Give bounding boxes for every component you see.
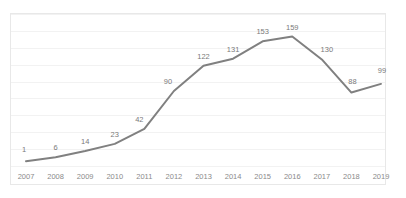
x-axis-tick-labels: 2007200820092010201120122013201420152016… bbox=[18, 172, 390, 181]
plot-area: 16142342901221311531591308899 2007200820… bbox=[0, 0, 406, 198]
data-point-label: 122 bbox=[197, 52, 210, 61]
chart-container: 16142342901221311531591308899 2007200820… bbox=[0, 0, 406, 198]
data-point-label: 153 bbox=[256, 27, 269, 36]
x-tick-label: 2017 bbox=[313, 172, 330, 181]
x-tick-label: 2016 bbox=[284, 172, 301, 181]
data-point-label: 99 bbox=[378, 66, 386, 75]
data-point-label: 130 bbox=[321, 45, 334, 54]
data-point-label: 159 bbox=[286, 23, 299, 32]
data-point-label: 23 bbox=[111, 130, 119, 139]
x-tick-label: 2011 bbox=[136, 172, 152, 181]
x-tick-label: 2009 bbox=[77, 172, 94, 181]
x-tick-label: 2015 bbox=[254, 172, 271, 181]
x-tick-label: 2018 bbox=[343, 172, 360, 181]
data-point-label: 6 bbox=[53, 143, 57, 152]
data-labels: 16142342901221311531591308899 bbox=[22, 23, 386, 155]
x-tick-label: 2014 bbox=[225, 172, 242, 181]
x-tick-label: 2008 bbox=[47, 172, 64, 181]
x-tick-label: 2012 bbox=[166, 172, 183, 181]
x-tick-label: 2019 bbox=[373, 172, 390, 181]
data-point-label: 131 bbox=[227, 45, 240, 54]
gridlines bbox=[11, 15, 385, 167]
data-point-label: 88 bbox=[348, 77, 356, 86]
line-chart-svg: 16142342901221311531591308899 2007200820… bbox=[0, 0, 406, 198]
x-tick-label: 2010 bbox=[106, 172, 123, 181]
data-point-label: 42 bbox=[135, 115, 143, 124]
x-tick-label: 2013 bbox=[195, 172, 212, 181]
x-tick-label: 2007 bbox=[18, 172, 35, 181]
data-point-label: 14 bbox=[81, 137, 89, 146]
data-point-label: 90 bbox=[164, 77, 172, 86]
data-point-label: 1 bbox=[22, 145, 26, 154]
